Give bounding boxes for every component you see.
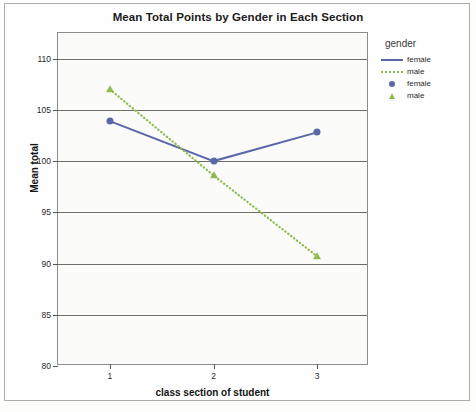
x-tick-mark	[110, 364, 111, 369]
legend-label: female	[407, 79, 431, 88]
y-tick-mark	[53, 212, 58, 213]
legend-entries: femalemalefemalemale	[381, 54, 471, 101]
data-point-female-1	[106, 118, 113, 125]
legend-label: female	[407, 55, 431, 64]
y-tick-label: 110	[37, 54, 51, 64]
triangle-marker-icon	[381, 90, 403, 101]
x-tick-label: 1	[107, 371, 112, 381]
solid-line-icon	[381, 54, 403, 65]
x-tick-label: 2	[211, 371, 216, 381]
data-point-female-2	[210, 158, 217, 165]
legend-item-triangle-marker[interactable]: male	[381, 90, 471, 101]
chart-screenshot: Mean Total Points by Gender in Each Sect…	[0, 0, 476, 412]
y-tick-label: 80	[42, 361, 51, 371]
plot-area: 80859095100105110 123	[57, 32, 368, 365]
x-axis-title: class section of student	[57, 387, 368, 398]
triangle-marker-glyph	[389, 93, 395, 99]
y-tick-mark	[53, 59, 58, 60]
legend-label: male	[407, 91, 424, 100]
series-lines-layer	[58, 33, 369, 366]
solid-line-glyph	[381, 59, 403, 61]
data-point-male-2	[210, 172, 218, 179]
legend-item-circle-marker[interactable]: female	[381, 78, 471, 89]
legend-label: male	[407, 67, 424, 76]
circle-marker-glyph	[389, 81, 395, 87]
y-tick-label: 105	[37, 105, 51, 115]
y-tick-mark	[53, 110, 58, 111]
legend: gender femalemalefemalemale	[381, 38, 471, 102]
y-tick-mark	[53, 315, 58, 316]
y-axis-title: Mean total	[29, 143, 40, 192]
y-tick-label: 85	[42, 310, 51, 320]
series-line-female	[110, 121, 317, 161]
y-tick-mark	[53, 366, 58, 367]
chart-title: Mean Total Points by Gender in Each Sect…	[0, 11, 476, 23]
data-point-male-1	[106, 85, 114, 92]
y-tick-label: 95	[42, 207, 51, 217]
x-tick-mark	[214, 364, 215, 369]
y-tick-mark	[53, 161, 58, 162]
data-point-female-3	[314, 129, 321, 136]
dotted-line-icon	[381, 66, 403, 77]
legend-item-dotted-line[interactable]: male	[381, 66, 471, 77]
dotted-line-glyph	[381, 71, 403, 73]
x-tick-label: 3	[315, 371, 320, 381]
data-point-male-3	[313, 253, 321, 260]
y-tick-mark	[53, 264, 58, 265]
circle-marker-icon	[381, 78, 403, 89]
legend-item-solid-line[interactable]: female	[381, 54, 471, 65]
y-tick-label: 90	[42, 259, 51, 269]
x-tick-mark	[317, 364, 318, 369]
legend-title: gender	[385, 38, 471, 49]
